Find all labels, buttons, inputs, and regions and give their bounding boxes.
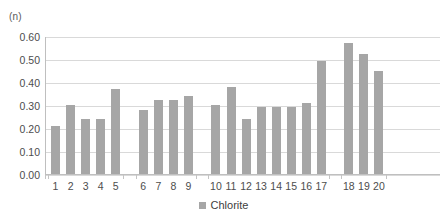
bar xyxy=(169,100,178,174)
x-axis-tick-label: 13 xyxy=(255,180,267,192)
x-axis-tick-mark xyxy=(208,175,209,179)
x-axis-tick-label: 18 xyxy=(343,180,355,192)
bar xyxy=(272,107,281,174)
x-axis-tick-mark xyxy=(329,175,330,179)
bar xyxy=(184,96,193,174)
bar xyxy=(257,107,266,174)
legend-swatch-chlorite xyxy=(199,202,206,209)
x-axis-tick-label: 15 xyxy=(285,180,297,192)
y-axis-tick-label: 0.40 xyxy=(6,77,40,89)
x-axis-tick-label: 14 xyxy=(270,180,282,192)
x-axis-tick-label: 16 xyxy=(300,180,312,192)
bar xyxy=(51,126,60,174)
y-axis-unit-label: (n) xyxy=(9,11,22,22)
x-axis-tick-labels: 1234567891011121314151617181920 xyxy=(45,180,440,196)
x-axis-tick-label: 9 xyxy=(185,180,191,192)
x-axis-tick-mark xyxy=(123,175,124,179)
bar xyxy=(302,103,311,174)
chart-legend: Chlorite xyxy=(0,199,447,211)
bar xyxy=(317,61,326,174)
y-axis-tick-label: 0.50 xyxy=(6,54,40,66)
bar xyxy=(287,107,296,174)
x-axis-tick-label: 11 xyxy=(226,180,237,192)
y-axis-tick-label: 0.20 xyxy=(6,123,40,135)
plot-area xyxy=(45,37,440,175)
legend-label-chlorite: Chlorite xyxy=(211,199,249,211)
y-axis-tick-label: 0.00 xyxy=(6,169,40,181)
x-axis-tick-label: 19 xyxy=(358,180,370,192)
bar xyxy=(81,119,90,174)
x-axis-tick-mark xyxy=(386,175,387,179)
x-axis-tick-label: 17 xyxy=(315,180,327,192)
x-axis-tick-label: 5 xyxy=(113,180,119,192)
y-axis-tick-label: 0.60 xyxy=(6,31,40,43)
x-axis-tick-label: 3 xyxy=(83,180,89,192)
x-axis-tick-mark xyxy=(196,175,197,179)
x-axis-tick-label: 7 xyxy=(155,180,161,192)
x-axis-tick-label: 6 xyxy=(140,180,146,192)
y-axis-tick-labels: 0.600.500.400.300.200.100.00 xyxy=(0,37,40,175)
bar xyxy=(139,110,148,174)
bar xyxy=(211,105,220,174)
bar xyxy=(66,105,75,174)
x-axis-tick-mark xyxy=(48,175,49,179)
x-axis-tick-mark xyxy=(45,175,46,179)
bar xyxy=(359,54,368,174)
x-axis-tick-label: 1 xyxy=(53,180,59,192)
bar xyxy=(242,119,251,174)
x-axis-tick-label: 2 xyxy=(68,180,74,192)
x-axis-tick-label: 8 xyxy=(170,180,176,192)
bar xyxy=(227,87,236,174)
x-axis-tick-mark xyxy=(136,175,137,179)
bar xyxy=(374,71,383,175)
bars xyxy=(45,37,440,175)
bar xyxy=(96,119,105,174)
y-axis-tick-label: 0.10 xyxy=(6,146,40,158)
bar xyxy=(154,100,163,174)
x-axis-tick-label: 4 xyxy=(98,180,104,192)
bar-chart: (n) 0.600.500.400.300.200.100.00 1234567… xyxy=(0,0,447,221)
y-axis-tick-label: 0.30 xyxy=(6,100,40,112)
x-axis-tick-mark xyxy=(341,175,342,179)
x-axis-tick-label: 12 xyxy=(240,180,252,192)
bar xyxy=(344,43,353,174)
x-axis-tick-label: 10 xyxy=(210,180,222,192)
bar xyxy=(111,89,120,174)
x-axis-tick-label: 20 xyxy=(373,180,385,192)
